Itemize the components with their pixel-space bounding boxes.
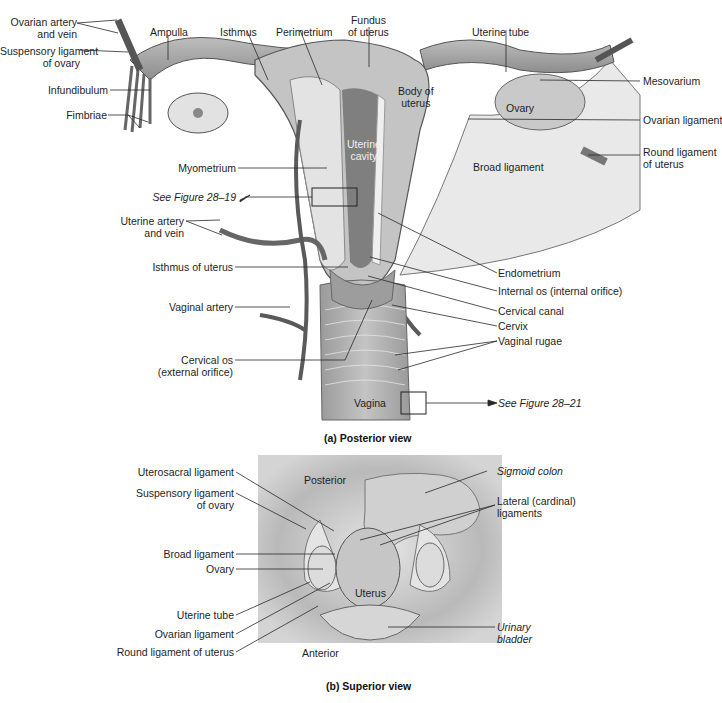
label-suspensory-ligament: Suspensory ligament of ovary xyxy=(0,45,80,69)
label-infundibulum: Infundibulum xyxy=(0,84,108,96)
label-ovary-b: Ovary xyxy=(0,563,234,575)
label-line-2: of ovary xyxy=(0,499,234,511)
label-line-1: Round ligament xyxy=(643,146,717,158)
label-line-1: Uterine xyxy=(347,138,381,150)
label-line-2: of uterus xyxy=(643,158,717,170)
label-line-2: uterus xyxy=(398,97,434,109)
label-broad-ligament-b: Broad ligament xyxy=(0,548,234,560)
label-broad-ligament-a: Broad ligament xyxy=(473,161,544,173)
label-ampulla: Ampulla xyxy=(150,26,188,38)
label-round-ligament-a: Round ligament of uterus xyxy=(643,146,717,170)
label-anterior: Anterior xyxy=(302,647,339,659)
label-ovarian-ligament-b: Ovarian ligament xyxy=(0,628,234,640)
label-perimetrium: Perimetrium xyxy=(276,26,333,38)
label-suspensory-ligament-b: Suspensory ligament of ovary xyxy=(0,487,234,511)
label-line-2: (external orifice) xyxy=(0,366,233,378)
label-cervical-os: Cervical os (external orifice) xyxy=(0,354,233,378)
label-uterus: Uterus xyxy=(355,587,386,599)
label-line-2: and vein xyxy=(0,28,77,40)
label-uterine-tube: Uterine tube xyxy=(472,26,529,38)
label-posterior: Posterior xyxy=(304,474,346,486)
label-fimbriae: Fimbriae xyxy=(0,109,107,121)
label-line-1: Cervical os xyxy=(0,354,233,366)
label-line-2: bladder xyxy=(497,633,532,645)
label-cervix: Cervix xyxy=(498,320,528,332)
link-see-figure-28-19[interactable]: See Figure 28–19 xyxy=(0,191,236,203)
label-line-2: and vein xyxy=(0,227,184,239)
label-lateral-ligaments: Lateral (cardinal) ligaments xyxy=(497,495,576,519)
label-line-1: Urinary xyxy=(497,621,532,633)
label-cervical-canal: Cervical canal xyxy=(498,305,564,317)
label-body-of-uterus: Body of uterus xyxy=(398,85,434,109)
label-ovary-a: Ovary xyxy=(506,102,534,114)
label-line-2: cavity xyxy=(347,150,381,162)
label-ovarian-artery-vein: Ovarian artery and vein xyxy=(0,16,77,40)
label-uterine-cavity: Uterine cavity xyxy=(347,138,381,162)
label-line-2: ligaments xyxy=(497,507,576,519)
label-line-1: Fundus xyxy=(348,14,389,26)
label-round-ligament-b: Round ligament of uterus xyxy=(0,646,234,658)
label-line-1: Body of xyxy=(398,85,434,97)
label-vagina: Vagina xyxy=(354,397,386,409)
link-see-figure-28-21[interactable]: See Figure 28–21 xyxy=(498,397,581,409)
label-uterine-tube-b: Uterine tube xyxy=(0,609,234,621)
label-line-1: Lateral (cardinal) xyxy=(497,495,576,507)
label-internal-os: Internal os (internal orifice) xyxy=(498,285,622,297)
label-vaginal-rugae: Vaginal rugae xyxy=(498,335,562,347)
label-line-1: Suspensory ligament xyxy=(0,487,234,499)
label-uterosacral-ligament: Uterosacral ligament xyxy=(0,466,234,478)
label-uterine-artery-vein: Uterine artery and vein xyxy=(0,215,184,239)
label-isthmus: Isthmus xyxy=(220,26,257,38)
label-endometrium: Endometrium xyxy=(498,267,560,279)
label-vaginal-artery: Vaginal artery xyxy=(0,301,233,313)
caption-posterior-view: (a) Posterior view xyxy=(324,432,412,444)
label-line-1: Uterine artery xyxy=(0,215,184,227)
label-myometrium: Myometrium xyxy=(0,162,236,174)
label-urinary-bladder: Urinary bladder xyxy=(497,621,532,645)
label-mesovarium: Mesovarium xyxy=(643,75,700,87)
label-line-2: of uterus xyxy=(348,26,389,38)
label-fundus: Fundus of uterus xyxy=(348,14,389,38)
caption-superior-view: (b) Superior view xyxy=(326,680,411,692)
label-line-1: Ovarian artery xyxy=(0,16,77,28)
label-line-2: of ovary xyxy=(0,57,80,69)
label-ovarian-ligament: Ovarian ligament xyxy=(643,114,722,126)
label-sigmoid-colon: Sigmoid colon xyxy=(497,465,563,477)
label-isthmus-of-uterus: Isthmus of uterus xyxy=(0,261,233,273)
label-line-1: Suspensory ligament xyxy=(0,45,80,57)
